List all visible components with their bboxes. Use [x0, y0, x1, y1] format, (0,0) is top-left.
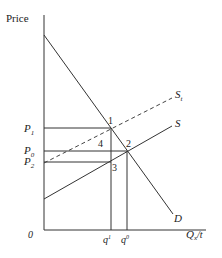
x-axis-label-suffix: /t	[196, 229, 203, 240]
origin-label: 0	[28, 229, 33, 240]
point-3-label: 3	[112, 162, 117, 173]
point-4-label: 4	[98, 138, 103, 149]
point-1-label: 1	[108, 115, 113, 126]
q0-label: q0	[121, 234, 129, 245]
supply-tax-curve	[44, 98, 172, 163]
x-axis-label-main: Q	[186, 228, 194, 240]
supply-label: S	[175, 117, 181, 129]
y-axis-label: Price	[6, 12, 29, 24]
supply-tax-label-sub: t	[181, 95, 184, 103]
supply-demand-diagram: Price 0 Qx/t D S St P1 P0 P2 q1 q0 1 2 3…	[0, 0, 222, 258]
supply-tax-label: St	[175, 88, 184, 103]
p1-label: P1	[23, 122, 34, 137]
demand-label: D	[173, 212, 182, 224]
point-2-label: 2	[126, 138, 131, 149]
q1-label: q1	[103, 234, 111, 245]
